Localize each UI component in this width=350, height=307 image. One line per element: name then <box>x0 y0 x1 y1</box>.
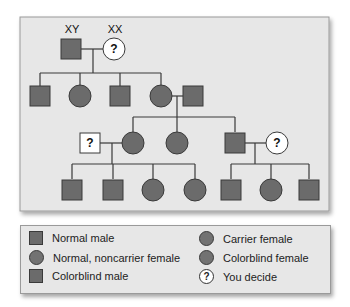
legend-item-colorblind-female: Colorblind female <box>199 250 309 265</box>
gen2-person-circle <box>150 85 172 107</box>
square-icon <box>29 231 43 245</box>
question-mark: ? <box>110 42 117 56</box>
gen2-person-circle <box>69 85 91 107</box>
father-square <box>61 39 81 59</box>
gen2-person-square <box>30 86 50 106</box>
question-mark: ? <box>86 136 93 150</box>
gen2-person-square <box>110 86 130 106</box>
gen4-person-square <box>62 180 82 200</box>
legend-label: Carrier female <box>223 233 293 245</box>
circle-icon <box>199 231 214 246</box>
gen3-person-circle <box>166 132 188 154</box>
square-icon <box>29 269 43 283</box>
father-genotype-label: XY <box>65 23 80 35</box>
pedigree-chart: ??? XY XX <box>0 0 350 222</box>
gen2-spouse-square <box>183 86 203 106</box>
question-mark: ? <box>273 136 280 150</box>
legend-item-you-decide: ? You decide <box>199 269 277 284</box>
legend-item-normal-male: Normal male <box>29 231 114 245</box>
legend-item-carrier-female: Carrier female <box>199 231 293 246</box>
question-icon: ? <box>199 269 214 284</box>
gen4-person-square <box>103 180 123 200</box>
gen4-person-circle <box>142 179 164 201</box>
gen3-person-circle <box>122 132 144 154</box>
legend-item-colorblind-male: Colorblind male <box>29 269 128 283</box>
gen4-person-square <box>299 180 319 200</box>
mother-genotype-label: XX <box>108 23 123 35</box>
gen4-person-square <box>221 180 241 200</box>
legend-label: You decide <box>223 271 277 283</box>
legend: Normal male Normal, noncarrier female Co… <box>20 225 331 294</box>
circle-icon <box>29 250 44 265</box>
gen3-person-square <box>225 133 245 153</box>
legend-label: Normal, noncarrier female <box>53 252 180 264</box>
gen4-person-circle <box>184 179 206 201</box>
legend-item-normal-female: Normal, noncarrier female <box>29 250 180 265</box>
legend-label: Colorblind female <box>223 252 309 264</box>
legend-label: Colorblind male <box>52 270 128 282</box>
gen4-person-circle <box>260 179 282 201</box>
circle-icon <box>199 250 214 265</box>
legend-label: Normal male <box>52 232 114 244</box>
